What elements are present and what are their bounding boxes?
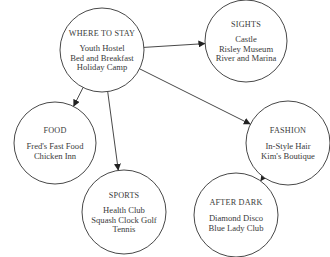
edge-arrow-fashion-to-afterdark bbox=[261, 177, 264, 181]
node-title: FOOD bbox=[43, 126, 66, 135]
node-fashion: FASHIONIn-Style HairKim's Boutique bbox=[246, 101, 330, 185]
node-item: Diamond Disco bbox=[209, 213, 263, 223]
node-food: FOODFred's Fast FoodChicken Inn bbox=[14, 102, 96, 184]
node-item: Chicken Inn bbox=[34, 151, 77, 161]
edge-arrow-stay-to-food bbox=[74, 88, 84, 107]
nodes-layer: WHERE TO STAYYouth HostelBed and Breakfa… bbox=[14, 0, 330, 257]
edge-arrow-stay-to-sights bbox=[144, 44, 205, 48]
node-item: River and Marina bbox=[216, 53, 277, 63]
node-item: Holiday Camp bbox=[77, 62, 127, 72]
node-sports: SPORTSHealth ClubSquash Clock GolfTennis bbox=[82, 170, 166, 254]
node-title: WHERE TO STAY bbox=[69, 29, 135, 38]
node-stay: WHERE TO STAYYouth HostelBed and Breakfa… bbox=[60, 8, 144, 92]
edge-arrow-stay-to-sports bbox=[108, 92, 119, 171]
node-item: Blue Lady Club bbox=[209, 223, 264, 233]
node-title: AFTER DARK bbox=[209, 198, 262, 207]
mind-map-diagram: WHERE TO STAYYouth HostelBed and Breakfa… bbox=[0, 0, 330, 257]
node-item: Tennis bbox=[113, 224, 136, 234]
node-item: Fred's Fast Food bbox=[27, 141, 85, 151]
node-item: Health Club bbox=[103, 205, 145, 215]
node-item: Bed and Breakfast bbox=[70, 53, 134, 63]
node-item: Youth Hostel bbox=[79, 43, 125, 53]
node-item: Risley Museum bbox=[219, 44, 274, 54]
node-item: Castle bbox=[235, 34, 257, 44]
node-sights: SIGHTSCastleRisley MuseumRiver and Marin… bbox=[205, 0, 287, 82]
node-afterdark: AFTER DARKDiamond DiscoBlue Lady Club bbox=[194, 173, 278, 257]
node-item: Squash Clock Golf bbox=[91, 215, 157, 225]
node-title: SPORTS bbox=[109, 191, 140, 200]
node-title: SIGHTS bbox=[231, 20, 261, 29]
node-item: In-Style Hair bbox=[265, 141, 310, 151]
node-item: Kim's Boutique bbox=[261, 151, 315, 161]
node-title: FASHION bbox=[270, 126, 306, 135]
